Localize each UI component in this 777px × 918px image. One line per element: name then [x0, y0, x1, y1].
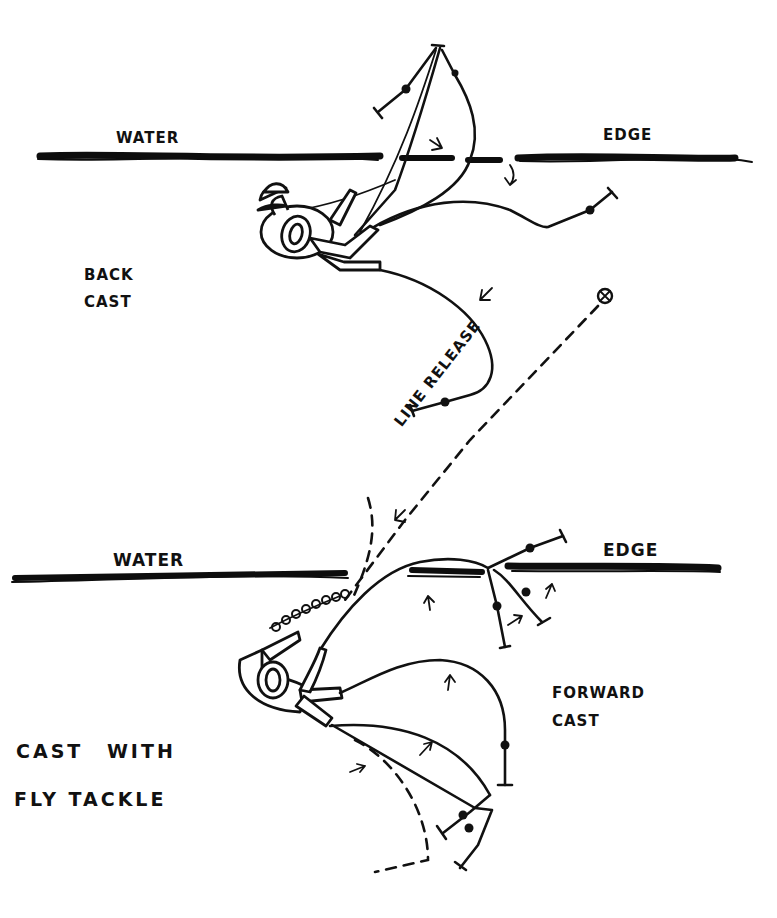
back-cast-label-line2: CAST — [84, 295, 132, 310]
line-back-right — [372, 192, 612, 228]
arrow-icon — [505, 165, 516, 185]
arrow-icon — [480, 288, 492, 300]
angler-figure-bottom — [239, 632, 342, 726]
arrow-icon — [508, 615, 522, 625]
arrow-icon — [350, 764, 365, 772]
arrow-icon — [445, 675, 455, 690]
arrow-icon — [546, 584, 555, 598]
forward-cast-label-line1: FORWARD — [552, 686, 645, 701]
arrow-icon — [430, 138, 442, 150]
release-point-icon — [598, 289, 612, 303]
title-line1: CAST WITH — [16, 742, 176, 761]
line-release-path — [345, 306, 598, 600]
water-label-bottom: WATER — [113, 552, 184, 569]
back-cast-illustration — [38, 45, 752, 416]
line-forward-lower — [330, 725, 490, 795]
edge-label-top: EDGE — [603, 128, 652, 143]
edge-label-bottom: EDGE — [603, 542, 658, 559]
arrow-icon — [420, 742, 432, 755]
back-cast-label-line1: BACK — [84, 268, 134, 283]
line-back-lower — [380, 270, 492, 411]
rod-position-left — [378, 48, 436, 112]
rod-position-mid — [494, 570, 542, 622]
title-line2: FLY TACKLE — [14, 790, 166, 809]
forward-cast-label-line2: CAST — [552, 714, 600, 729]
arrow-icon — [424, 596, 434, 610]
water-label-top: WATER — [116, 131, 179, 146]
